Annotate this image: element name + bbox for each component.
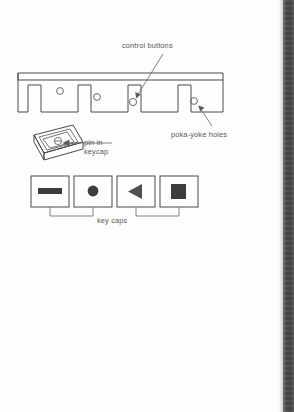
leader-key-caps: [50, 207, 179, 216]
panel-hole-2: [94, 94, 101, 101]
panel-hole-3: [129, 98, 136, 105]
panel-hole-4: [191, 98, 198, 105]
left-triangle-icon: [128, 184, 142, 199]
label-poka-yoke-holes: poka-yoke holes: [171, 130, 227, 139]
keycap-isometric: [34, 125, 83, 160]
label-key-caps: key caps: [97, 216, 127, 225]
label-pin-in-keycap-line2: keycap: [84, 147, 108, 156]
control-panel-rail: [18, 73, 223, 112]
keycap-square[interactable]: [160, 176, 198, 207]
dash-bar-icon: [38, 188, 62, 194]
keycap-dash[interactable]: [31, 176, 69, 207]
panel-hole-1: [57, 88, 64, 95]
figure-technical-diagram: [0, 0, 294, 412]
keycap-triangle[interactable]: [117, 176, 155, 207]
filled-square-icon: [171, 184, 186, 199]
leader-control-buttons: [135, 54, 163, 98]
filled-circle-icon: [88, 186, 99, 197]
keycap-row: [31, 176, 198, 207]
scanner-gutter: [283, 0, 294, 412]
label-pin-in-keycap-line1: pin in: [84, 138, 103, 147]
label-pin-in-keycap: pin in keycap: [84, 138, 108, 156]
keycap-circle[interactable]: [74, 176, 112, 207]
label-control-buttons: control buttons: [122, 41, 173, 50]
scanned-page: control buttons poka-yoke holes pin in k…: [0, 0, 294, 412]
leader-poka-yoke: [198, 105, 212, 126]
